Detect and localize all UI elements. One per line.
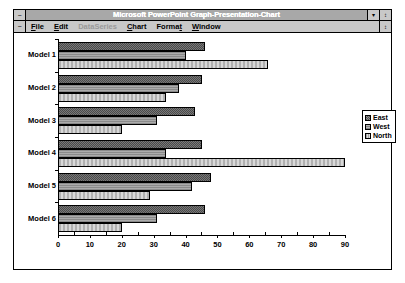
legend-swatch-east-icon bbox=[365, 115, 371, 121]
bar-west-5[interactable] bbox=[58, 182, 192, 191]
value-axis-minor-tick-5 bbox=[201, 232, 202, 235]
value-axis-minor-tick-7 bbox=[265, 232, 266, 235]
value-axis-tick-80 bbox=[313, 235, 314, 238]
bar-west-4[interactable] bbox=[58, 149, 166, 158]
legend-label-east: East bbox=[373, 114, 388, 122]
value-axis-label-60: 60 bbox=[245, 240, 253, 249]
legend-entry-west[interactable]: West bbox=[365, 122, 392, 131]
menu-item-file[interactable]: File bbox=[26, 21, 49, 32]
window-title: Microsoft PowerPoint Graph-Presentation-… bbox=[26, 10, 367, 20]
value-axis-minor-tick-4 bbox=[170, 232, 171, 235]
value-axis-minor-tick-3 bbox=[138, 232, 139, 235]
minimize-button[interactable]: ▾ bbox=[367, 10, 379, 20]
bar-west-3[interactable] bbox=[58, 116, 157, 125]
value-axis-label-20: 20 bbox=[118, 240, 126, 249]
value-axis-label-70: 70 bbox=[277, 240, 285, 249]
document-system-menu-button[interactable]: − bbox=[14, 21, 26, 32]
value-axis-minor-tick-9 bbox=[329, 232, 330, 235]
bar-west-2[interactable] bbox=[58, 84, 179, 93]
menu-bar: − File Edit DataSeries Chart Format Wind… bbox=[14, 21, 391, 33]
value-axis-label-50: 50 bbox=[213, 240, 221, 249]
document-menu-icon: − bbox=[17, 23, 21, 30]
minimize-icon: ▾ bbox=[372, 12, 375, 18]
category-label-3: Model 3 bbox=[28, 116, 56, 125]
bar-east-1[interactable] bbox=[58, 42, 205, 51]
bar-east-6[interactable] bbox=[58, 205, 205, 214]
category-axis-tick-2 bbox=[55, 72, 58, 73]
bar-east-4[interactable] bbox=[58, 140, 202, 149]
value-axis-tick-20 bbox=[122, 235, 123, 238]
legend-label-west: West bbox=[373, 123, 390, 131]
value-axis-tick-90 bbox=[345, 235, 346, 238]
category-axis-labels: Model 1Model 2Model 3Model 4Model 5Model… bbox=[14, 39, 56, 235]
maximize-button[interactable]: ↕ bbox=[379, 10, 391, 20]
value-axis-minor-tick-6 bbox=[233, 232, 234, 235]
plot-area bbox=[58, 39, 345, 235]
document-restore-button[interactable]: ↕ bbox=[379, 21, 391, 32]
system-menu-button[interactable]: − bbox=[14, 10, 26, 20]
bar-north-1[interactable] bbox=[58, 60, 268, 69]
value-axis-tick-50 bbox=[217, 235, 218, 238]
category-axis-tick-3 bbox=[55, 104, 58, 105]
value-axis-label-90: 90 bbox=[341, 240, 349, 249]
category-label-4: Model 4 bbox=[28, 148, 56, 157]
value-axis-tick-0 bbox=[58, 235, 59, 238]
system-menu-icon: − bbox=[17, 12, 21, 19]
category-label-6: Model 6 bbox=[28, 214, 56, 223]
category-axis-tick-5 bbox=[55, 170, 58, 171]
category-axis-tick-4 bbox=[55, 137, 58, 138]
menu-item-format[interactable]: Format bbox=[152, 21, 187, 32]
value-axis-tick-60 bbox=[249, 235, 250, 238]
menu-item-dataseries: DataSeries bbox=[73, 21, 122, 32]
maximize-icon: ↕ bbox=[384, 12, 387, 18]
category-label-1: Model 1 bbox=[28, 50, 56, 59]
value-axis-label-10: 10 bbox=[86, 240, 94, 249]
value-axis-label-40: 40 bbox=[181, 240, 189, 249]
value-axis-minor-tick-8 bbox=[297, 232, 298, 235]
bar-north-4[interactable] bbox=[58, 158, 345, 167]
legend-swatch-west-icon bbox=[365, 124, 371, 130]
value-axis-tick-30 bbox=[154, 235, 155, 238]
bar-north-6[interactable] bbox=[58, 223, 122, 232]
bar-north-5[interactable] bbox=[58, 191, 150, 200]
legend-label-north: North bbox=[373, 132, 392, 140]
bar-north-3[interactable] bbox=[58, 125, 122, 134]
value-axis-label-30: 30 bbox=[149, 240, 157, 249]
menu-item-window[interactable]: Window bbox=[187, 21, 226, 32]
category-axis-tick-1 bbox=[55, 39, 58, 40]
value-axis-tick-10 bbox=[90, 235, 91, 238]
value-axis-minor-tick-1 bbox=[74, 232, 75, 235]
value-axis-tick-70 bbox=[281, 235, 282, 238]
restore-icon: ↕ bbox=[384, 24, 387, 30]
application-window: − Microsoft PowerPoint Graph-Presentatio… bbox=[13, 9, 392, 270]
value-axis-label-0: 0 bbox=[56, 240, 60, 249]
legend-swatch-north-icon bbox=[365, 133, 371, 139]
category-axis-tick-6 bbox=[55, 202, 58, 203]
bar-west-6[interactable] bbox=[58, 214, 157, 223]
menu-item-chart[interactable]: Chart bbox=[122, 21, 152, 32]
value-axis-minor-tick-2 bbox=[106, 232, 107, 235]
bar-east-5[interactable] bbox=[58, 173, 211, 182]
chart-canvas[interactable]: Model 1Model 2Model 3Model 4Model 5Model… bbox=[14, 33, 391, 268]
menu-item-edit[interactable]: Edit bbox=[49, 21, 73, 32]
category-label-5: Model 5 bbox=[28, 181, 56, 190]
title-bar: − Microsoft PowerPoint Graph-Presentatio… bbox=[14, 10, 391, 21]
bar-north-2[interactable] bbox=[58, 93, 166, 102]
category-label-2: Model 2 bbox=[28, 83, 56, 92]
bar-east-3[interactable] bbox=[58, 107, 195, 116]
value-axis-label-80: 80 bbox=[309, 240, 317, 249]
bar-west-1[interactable] bbox=[58, 51, 186, 60]
legend-entry-north[interactable]: North bbox=[365, 131, 392, 140]
chart-legend[interactable]: EastWestNorth bbox=[362, 110, 396, 143]
bar-east-2[interactable] bbox=[58, 75, 202, 84]
legend-entry-east[interactable]: East bbox=[365, 113, 392, 122]
value-axis-tick-40 bbox=[186, 235, 187, 238]
category-axis-line bbox=[58, 235, 346, 236]
